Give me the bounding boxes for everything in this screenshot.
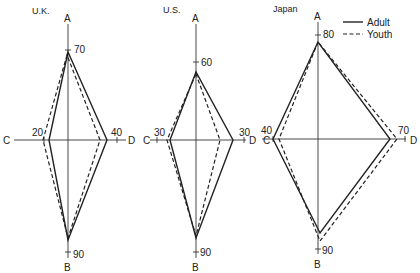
chart-title-us: U.S. <box>163 5 181 15</box>
chart-uk: U.K. A B C D 70 90 20 40 <box>3 6 135 273</box>
tick-label-a-uk: 70 <box>74 44 86 55</box>
tick-label-c-japan: 40 <box>261 125 273 136</box>
chart-us: U.S. A B C D 60 90 30 30 <box>143 5 256 273</box>
series-adult-japan <box>273 42 390 233</box>
tick-label-d-uk: 40 <box>111 127 123 138</box>
axis-label-c-us: C <box>143 135 150 146</box>
radar-charts: U.K. A B C D 70 90 20 40 U.S. A B C D 6 <box>0 0 420 273</box>
axis-label-a-uk: A <box>64 13 71 24</box>
chart-japan: Japan A B C D 80 90 40 70 <box>261 4 417 270</box>
series-youth-uk <box>43 55 100 238</box>
axis-label-b-us: B <box>192 262 199 273</box>
chart-title-japan: Japan <box>273 4 298 14</box>
axis-label-a-us: A <box>192 13 199 24</box>
axis-label-a-japan: A <box>314 11 321 22</box>
tick-label-d-japan: 70 <box>398 125 410 136</box>
axis-label-b-uk: B <box>64 262 71 273</box>
series-youth-japan <box>279 42 397 241</box>
legend-youth-label: Youth <box>367 29 392 40</box>
axis-label-c-uk: C <box>3 135 10 146</box>
axis-label-d-japan: D <box>410 135 417 146</box>
tick-label-a-japan: 80 <box>323 29 335 40</box>
tick-label-c-uk: 20 <box>32 127 44 138</box>
axis-label-d-uk: D <box>128 135 135 146</box>
tick-label-a-us: 60 <box>201 57 213 68</box>
tick-label-b-japan: 90 <box>322 245 334 256</box>
axis-label-b-japan: B <box>314 259 321 270</box>
tick-label-c-us: 30 <box>154 127 166 138</box>
tick-label-b-uk: 90 <box>73 249 85 260</box>
series-youth-us <box>167 74 220 236</box>
axis-label-c-japan: C <box>263 135 270 146</box>
tick-label-d-us: 30 <box>239 127 251 138</box>
legend-adult-label: Adult <box>367 17 390 28</box>
chart-title-uk: U.K. <box>32 6 50 16</box>
legend: Adult Youth <box>343 17 392 40</box>
tick-label-b-us: 90 <box>200 247 212 258</box>
